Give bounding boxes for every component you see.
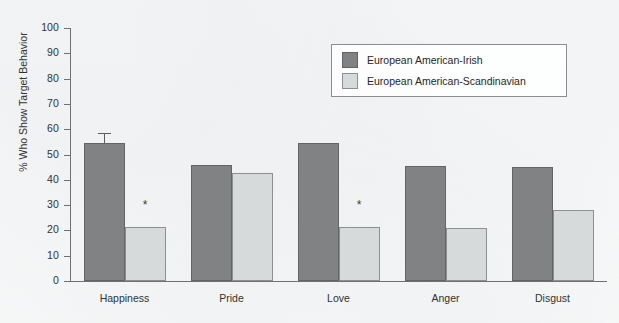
bar-pride-scandinavian xyxy=(232,173,273,281)
y-axis-title: % Who Show Target Behavior xyxy=(17,22,29,182)
bar-love-scandinavian xyxy=(339,227,380,281)
y-tick-60 xyxy=(64,129,71,130)
y-tick-30 xyxy=(64,205,71,206)
y-tick-50 xyxy=(64,155,71,156)
x-label-anger: Anger xyxy=(431,292,459,304)
error-bar-cap-happiness xyxy=(98,133,111,134)
significance-star-happiness: * xyxy=(143,199,148,211)
legend-swatch-dark xyxy=(342,52,358,68)
x-label-love: Love xyxy=(327,292,350,304)
bar-happiness-scandinavian xyxy=(125,227,166,281)
y-tick-label-20: 20 xyxy=(33,223,59,235)
chart-legend: European American-Irish European America… xyxy=(331,44,567,97)
y-tick-label-10: 10 xyxy=(33,249,59,261)
legend-entry-irish: European American-Irish xyxy=(342,52,483,68)
x-label-pride: Pride xyxy=(219,292,244,304)
y-tick-80 xyxy=(64,79,71,80)
legend-label-irish: European American-Irish xyxy=(367,54,483,66)
x-label-disgust: Disgust xyxy=(535,292,570,304)
bar-chart-figure: % Who Show Target Behavior 0102030405060… xyxy=(0,0,619,323)
significance-star-love: * xyxy=(357,199,362,211)
y-tick-label-50: 50 xyxy=(33,148,59,160)
x-axis-line xyxy=(70,281,607,282)
y-tick-label-60: 60 xyxy=(33,122,59,134)
y-tick-label-0: 0 xyxy=(33,274,59,286)
legend-entry-scandinavian: European American-Scandinavian xyxy=(342,73,526,89)
y-tick-label-80: 80 xyxy=(33,72,59,84)
bar-happiness-irish xyxy=(84,143,125,281)
y-tick-label-40: 40 xyxy=(33,173,59,185)
y-tick-label-30: 30 xyxy=(33,198,59,210)
legend-swatch-light xyxy=(342,73,358,89)
bar-disgust-scandinavian xyxy=(553,210,594,281)
y-tick-100 xyxy=(64,28,71,29)
bar-pride-irish xyxy=(191,165,232,281)
y-tick-0 xyxy=(64,281,71,282)
bar-disgust-irish xyxy=(512,167,553,281)
y-tick-40 xyxy=(64,180,71,181)
bar-anger-scandinavian xyxy=(446,228,487,281)
y-tick-10 xyxy=(64,256,71,257)
y-tick-label-70: 70 xyxy=(33,97,59,109)
y-tick-70 xyxy=(64,104,71,105)
y-tick-label-100: 100 xyxy=(33,21,59,33)
y-tick-label-90: 90 xyxy=(33,46,59,58)
error-bar-happiness xyxy=(104,134,105,143)
bar-love-irish xyxy=(298,143,339,281)
x-label-happiness: Happiness xyxy=(100,292,150,304)
bar-anger-irish xyxy=(405,166,446,281)
legend-label-scandinavian: European American-Scandinavian xyxy=(367,75,526,87)
y-tick-20 xyxy=(64,230,71,231)
y-tick-90 xyxy=(64,53,71,54)
